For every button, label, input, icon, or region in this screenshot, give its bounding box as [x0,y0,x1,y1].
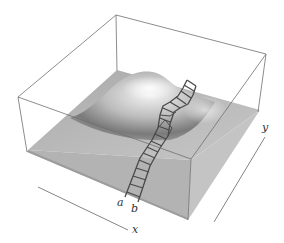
y-axis-label: y [261,121,269,134]
hill-highlight [122,76,178,100]
x-axis-label: x [132,223,139,236]
curve-b-label: b [131,202,138,215]
curve-a-label: a [117,196,124,209]
surface-plot-figure: a b x y [0,0,284,243]
x-axis-line [38,187,128,230]
